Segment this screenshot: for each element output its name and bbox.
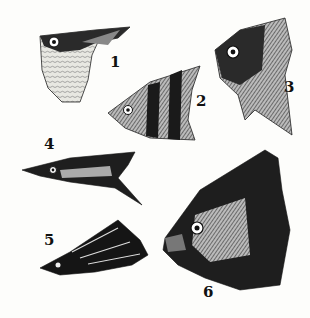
fish-3 [215,18,292,135]
figure-label-6: 6 [203,285,213,300]
fish-plate: 1 2 3 4 5 6 [0,0,310,318]
figure-label-1: 1 [110,55,120,70]
fish-4 [22,152,142,205]
figure-label-4: 4 [44,137,54,152]
figure-label-3: 3 [284,80,294,95]
figure-label-2: 2 [196,94,206,109]
fish-illustrations [0,0,310,318]
fish-2 [108,66,200,140]
figure-label-5: 5 [44,233,54,248]
fish-6 [163,150,290,290]
fish-5 [40,220,148,275]
